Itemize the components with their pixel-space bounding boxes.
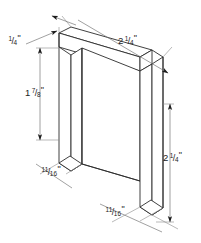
- bracket-solid: [59, 27, 163, 215]
- left-leg-side-face: [71, 48, 82, 171]
- dimension-thickness-group: [26, 27, 59, 44]
- dimension-label-thickness: 1/4": [8, 36, 21, 46]
- left-leg-front-face: [59, 47, 71, 171]
- right-leg-front-face: [140, 64, 152, 215]
- dimension-top-width-ext-right: [163, 47, 172, 57]
- right-leg-side-face: [152, 57, 163, 215]
- dimension-top-width-arrow-left: [52, 16, 76, 25]
- dimension-label-overall-height: 2 1/4": [163, 153, 182, 163]
- dimension-label-inner-height: 1 7/8": [25, 88, 44, 98]
- dimension-label-top-width: 2 1/4": [118, 36, 137, 46]
- technical-drawing-canvas: 1/4" 2 1/4" 1 7/8" 11/16" 2 1/4" 11/16": [0, 0, 201, 243]
- channel-inner-back-face: [82, 48, 140, 181]
- dimension-label-right-leg-depth: 11/16": [105, 207, 125, 217]
- dimension-thickness-leader: [26, 31, 57, 44]
- dimension-right-leg-depth-ext-c: [152, 215, 178, 229]
- dimension-label-left-leg-depth: 11/16": [41, 167, 61, 177]
- isometric-bracket-drawing: [0, 0, 201, 243]
